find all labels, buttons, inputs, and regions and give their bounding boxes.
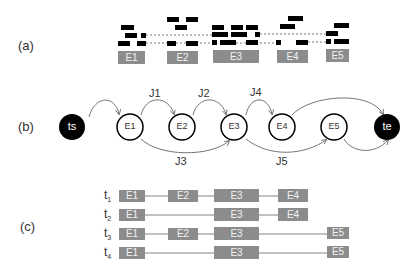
jump-j5-label: J5	[276, 155, 288, 167]
trace-t4-e5: E5	[327, 246, 349, 258]
trace-t2-e4: E4	[278, 208, 308, 221]
jump-j2-label: J2	[198, 87, 210, 99]
trace-t4-label: t4	[104, 245, 111, 260]
trace-t2-label: t2	[104, 207, 111, 222]
panel-a-dashes	[0, 0, 414, 80]
trace-t4-e1: E1	[119, 247, 145, 259]
trace-t4-e3: E3	[214, 246, 259, 259]
node-te-label: te	[374, 120, 400, 132]
trace-t3-e3: E3	[214, 227, 259, 240]
trace-t1-e3: E3	[214, 189, 259, 202]
node-e5-label: E5	[321, 121, 347, 131]
node-e3-label: E3	[221, 121, 247, 131]
node-e1-label: E1	[117, 121, 143, 131]
node-e2-label: E2	[169, 121, 195, 131]
trace-t3-label: t3	[104, 226, 111, 241]
node-ts-label: ts	[59, 120, 85, 132]
trace-t2-e3: E3	[214, 208, 259, 221]
trace-t2-e1: E1	[119, 209, 145, 221]
trace-t1-e2: E2	[168, 190, 198, 202]
node-e4-label: E4	[269, 121, 295, 131]
trace-t3-e1: E1	[119, 228, 145, 240]
trace-t1-e4: E4	[278, 189, 308, 202]
trace-t3-e2: E2	[168, 228, 198, 240]
jump-j1-label: J1	[149, 87, 161, 99]
trace-t3-e5: E5	[327, 227, 349, 239]
jump-j4-label: J4	[250, 86, 262, 98]
panel-a-event-e1: E1	[118, 51, 145, 64]
panel-a-event-e4: E4	[277, 50, 308, 63]
panel-c-lines	[0, 175, 414, 275]
trace-t1-label: t1	[104, 188, 111, 203]
panel-a-event-e2: E2	[167, 51, 198, 64]
panel-a-event-e5: E5	[326, 49, 349, 62]
trace-t1-e1: E1	[119, 190, 145, 202]
panel-a-event-e3: E3	[213, 50, 259, 63]
jump-j3-label: J3	[175, 155, 187, 167]
